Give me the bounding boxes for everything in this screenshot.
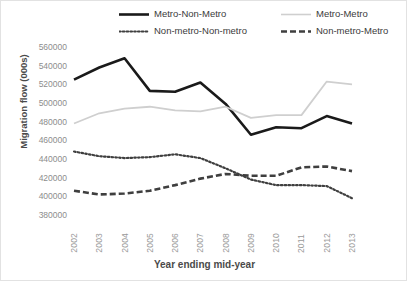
x-axis-tick-label: 2007	[195, 233, 205, 253]
x-axis-title: Year ending mid-year	[1, 259, 408, 270]
x-axis-tick-label: 2009	[246, 233, 256, 253]
x-axis-tick-label: 2008	[221, 233, 231, 253]
x-axis-tick-label: 2002	[69, 233, 79, 253]
x-axis-tick-label: 2010	[271, 233, 281, 253]
x-axis-tick-label: 2013	[347, 233, 357, 253]
series-line-3	[74, 166, 352, 194]
series-line-2	[74, 152, 352, 199]
x-axis-ticks: 2002200320042005200620072008200920102011…	[1, 219, 408, 253]
x-axis-tick-label: 2011	[296, 234, 306, 253]
series-line-0	[74, 58, 352, 135]
x-axis-tick-label: 2006	[170, 233, 180, 253]
x-axis-tick-label: 2003	[94, 233, 104, 253]
x-axis-tick-label: 2005	[145, 233, 155, 253]
chart-container: Metro-Non-Metro Metro-Metro Non-metro-No…	[0, 0, 407, 281]
series-line-1	[74, 82, 352, 124]
x-axis-tick-label: 2012	[322, 233, 332, 253]
x-axis-tick-label: 2004	[120, 233, 130, 253]
